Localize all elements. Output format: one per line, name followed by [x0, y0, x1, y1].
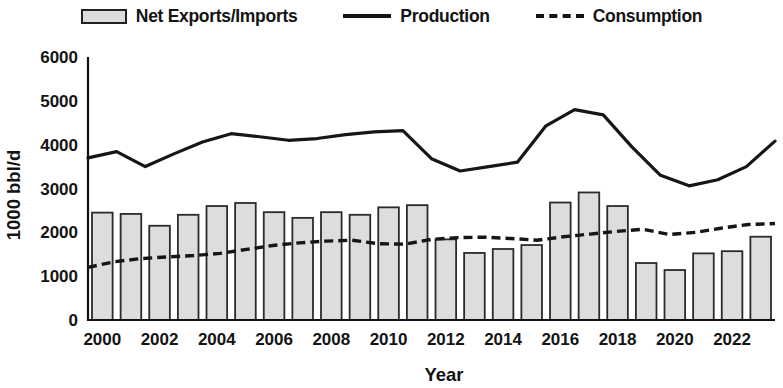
bar	[722, 251, 743, 320]
bar	[464, 253, 485, 320]
x-tick-label: 2014	[484, 330, 522, 349]
bar	[550, 203, 571, 320]
bar	[378, 207, 399, 320]
bar	[636, 263, 657, 320]
bar	[493, 249, 514, 320]
bar	[321, 212, 342, 320]
bar	[149, 226, 170, 320]
y-axis-title: 1000 bbl/d	[3, 150, 24, 240]
plot-canvas: 0100020003000400050006000 20002002200420…	[0, 0, 783, 388]
x-tick-label: 2004	[198, 330, 236, 349]
bar	[436, 239, 457, 320]
bar	[407, 205, 428, 320]
x-tick-label: 2012	[427, 330, 465, 349]
bar	[693, 253, 714, 320]
x-tick-label: 2018	[599, 330, 637, 349]
x-tick-label: 2010	[370, 330, 408, 349]
x-tick-label: 2006	[255, 330, 293, 349]
bar	[350, 215, 371, 320]
x-axis-tick-labels: 2000200220042006200820102012201420162018…	[83, 330, 751, 349]
bar	[607, 206, 628, 320]
x-tick-label: 2020	[656, 330, 694, 349]
y-tick-label: 4000	[40, 136, 78, 155]
bar	[579, 192, 600, 320]
y-axis-tick-labels: 0100020003000400050006000	[40, 48, 78, 330]
line-series-production	[88, 110, 775, 186]
bar	[665, 270, 686, 320]
bar	[521, 245, 542, 320]
bar	[750, 237, 771, 320]
bar	[121, 214, 142, 320]
y-tick-label: 6000	[40, 48, 78, 67]
x-tick-label: 2016	[541, 330, 579, 349]
bar	[207, 206, 228, 320]
x-tick-label: 2022	[713, 330, 751, 349]
x-tick-label: 2000	[83, 330, 121, 349]
x-tick-label: 2008	[312, 330, 350, 349]
y-tick-label: 1000	[40, 267, 78, 286]
bar	[235, 203, 256, 320]
net-exports-production-consumption-chart: Net Exports/Imports Production Consumpti…	[0, 0, 783, 388]
y-tick-label: 2000	[40, 223, 78, 242]
x-tick-label: 2002	[141, 330, 179, 349]
y-tick-label: 0	[69, 311, 78, 330]
y-tick-label: 3000	[40, 180, 78, 199]
x-axis-title: Year	[424, 364, 463, 385]
bar	[264, 212, 285, 320]
bar	[178, 215, 199, 320]
bar	[292, 218, 313, 320]
y-tick-label: 5000	[40, 92, 78, 111]
